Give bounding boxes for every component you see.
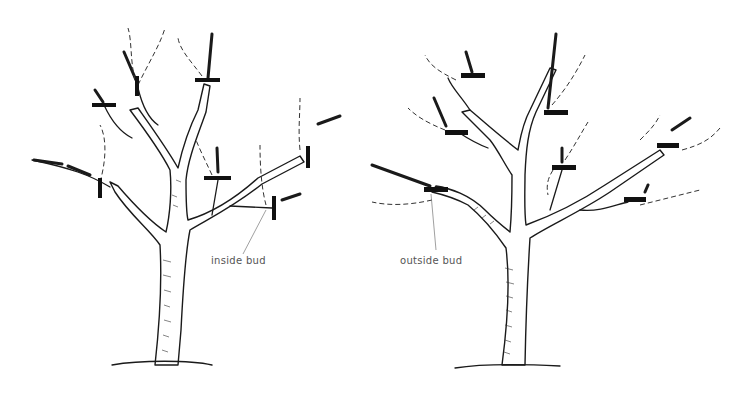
left-trunk (110, 84, 304, 365)
cut-mark (195, 78, 220, 82)
cut-mark (92, 103, 116, 107)
cut-mark (461, 73, 485, 78)
cut-mark (272, 196, 276, 220)
cut-mark (424, 187, 448, 192)
cut-mark (98, 178, 102, 198)
cut-mark (544, 110, 568, 115)
cut-mark (306, 146, 310, 168)
cut-mark (135, 76, 139, 96)
cut-mark (624, 197, 646, 202)
cut-mark (657, 143, 679, 148)
cut-mark (445, 130, 468, 135)
inside-bud-label: inside bud (211, 255, 266, 266)
cut-mark (204, 176, 231, 180)
pruning-diagram: .trunk{fill:#fff;stroke:#1a1a1a;stroke-w… (0, 0, 737, 395)
cut-mark (552, 165, 576, 170)
right-tree (372, 34, 720, 368)
left-tree (32, 28, 340, 365)
outside-bud-label: outside bud (400, 255, 462, 266)
